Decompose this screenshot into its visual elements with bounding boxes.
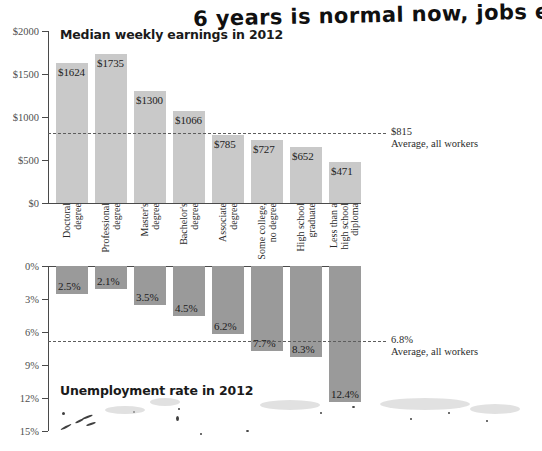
bar [134,91,166,203]
category-label-line: Doctoral [62,203,73,238]
average-reference-line [48,133,386,134]
category-label: Bachelor'sdegree [173,203,205,261]
bar-value-label: $471 [331,165,353,177]
category-label-line: diploma [350,203,361,249]
y-axis-tick-label: $500 [18,155,39,166]
category-label: Less than ahigh schooldiploma [329,203,361,261]
chart-unemployment-rate: Unemployment rate in 2012 0%3%6%9%12%15%… [0,258,542,451]
category-label-line: degree [228,203,239,242]
y-axis-tick-label: $1500 [13,69,39,80]
category-label: Doctoraldegree [56,203,88,261]
category-label-line: degree [111,203,122,252]
y-axis-unemployment [48,266,49,431]
category-label-line: degree [189,203,200,245]
category-label-line: Associate [218,203,229,242]
y-axis-tick [42,431,48,432]
y-axis-tick [42,117,48,118]
average-reference-line [48,341,386,342]
category-label-line: graduate [306,203,317,252]
bar-value-label: 2.1% [97,275,120,287]
y-axis-tick [42,160,48,161]
category-label: Master'sdegree [134,203,166,261]
bar-value-label: $1735 [97,57,124,69]
bar-value-label: 6.2% [214,320,237,332]
bar [329,266,361,402]
y-axis-tick-label: 15% [20,426,39,437]
bar-value-label: $1066 [175,114,202,126]
category-label-line: Bachelor's [179,203,190,245]
plot-area-unemployment: 0%3%6%9%12%15%2.5%2.1%3.5%4.5%6.2%7.7%8.… [48,266,360,431]
category-label: Professionaldegree [95,203,127,261]
category-label-text: Bachelor'sdegree [179,203,200,245]
bar-value-label: 3.5% [136,291,159,303]
y-axis-tick [42,332,48,333]
bar-value-label: 2.5% [58,280,81,292]
category-label: Some college,no degree [251,203,283,261]
y-axis-tick [42,74,48,75]
category-label-line: Less than a [329,203,340,249]
y-axis-tick [42,398,48,399]
average-value: 6.8% [391,334,478,347]
category-label-line: Some college, [257,203,268,260]
category-label-text: Master'sdegree [140,203,161,236]
bar-value-label: $652 [292,150,314,162]
average-reference-label: $815Average, all workers [391,126,478,151]
handwriting-struck-word: effect [535,0,542,24]
category-label: Associatedegree [212,203,244,261]
average-caption: Average, all workers [391,138,478,149]
y-axis-tick-label: 12% [20,393,39,404]
average-reference-label: 6.8%Average, all workers [391,334,478,359]
bar-value-label: 7.7% [253,337,276,349]
scanned-chart-page: 6 years is normal now, jobs effect this … [0,0,542,451]
category-label-text: Associatedegree [218,203,239,242]
bar [95,54,127,203]
bar-value-label: 12.4% [331,388,359,400]
bar-value-label: $1624 [58,66,85,78]
average-caption: Average, all workers [391,346,478,357]
category-label: High schoolgraduate [290,203,322,261]
y-axis-tick [42,365,48,366]
plot-area-earnings: $2000$1500$1000$500$0$1624$1735$1300$106… [48,31,360,203]
y-axis-tick-label: 9% [25,360,39,371]
category-label-line: High school [296,203,307,252]
bar-value-label: $1300 [136,94,163,106]
bar-value-label: $727 [253,143,275,155]
category-label-text: Less than ahigh schooldiploma [329,203,361,249]
bar-value-label: 4.5% [175,302,198,314]
category-axis-labels: DoctoraldegreeProfessionaldegreeMaster's… [48,203,360,261]
category-label-text: Doctoraldegree [62,203,83,238]
y-axis-tick-label: 3% [25,294,39,305]
category-label-line: Professional [101,203,112,252]
y-axis-tick-label: 0% [25,261,39,272]
y-axis-tick-label: $2000 [13,26,39,37]
category-label-line: Master's [140,203,151,236]
category-label-line: no degree [267,203,278,260]
y-axis-tick-label: 6% [25,327,39,338]
category-label-text: High schoolgraduate [296,203,317,252]
y-axis-tick-label: $0 [29,198,40,209]
y-axis-tick [42,266,48,267]
y-axis-tick [42,31,48,32]
y-axis-tick [42,299,48,300]
category-label-text: Some college,no degree [257,203,278,260]
y-axis-earnings [48,31,49,203]
category-label-line: degree [72,203,83,238]
category-label-line: degree [150,203,161,236]
bar-value-label: $785 [214,138,236,150]
y-axis-tick-label: $1000 [13,112,39,123]
bar-value-label: 8.3% [292,343,315,355]
chart-median-weekly-earnings: Median weekly earnings in 2012 $2000$150… [0,22,542,202]
category-label-text: Professionaldegree [101,203,122,252]
average-value: $815 [391,126,478,139]
